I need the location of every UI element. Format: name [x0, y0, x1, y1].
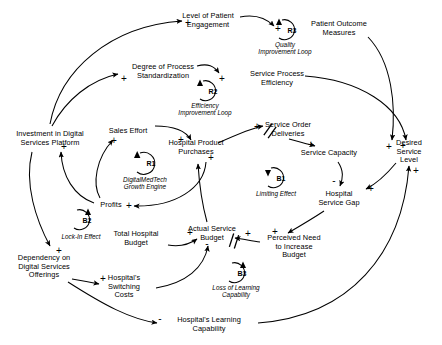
polarity-investment-to-patient-engagement: + — [185, 18, 191, 28]
loop-id-b3: B3 — [238, 270, 247, 277]
node-investment-in-digital-services-platform: Investment in Digital Services Platform — [16, 130, 84, 147]
polarity-budget-to-purchases: + — [208, 153, 214, 163]
polarity-investment-to-dependency: + — [56, 246, 62, 256]
link-gap-to-perceived-need — [288, 211, 324, 233]
loop-id-b1: B1 — [277, 175, 286, 182]
link-investment-to-dependency — [29, 152, 50, 246]
loop-name-b2: Lock-In Effect — [61, 233, 100, 240]
link-profits-to-sales-effort — [96, 140, 113, 198]
polarity-profits-to-sales-effort: + — [111, 136, 117, 146]
polarity-desired-level-to-gap: + — [368, 184, 374, 194]
node-hospital-product-purchases: Hospital Product Purchases — [168, 139, 223, 156]
polarity-gap-to-perceived-need: + — [272, 227, 278, 237]
polarity-standardization-to-efficiency: + — [219, 74, 225, 84]
loop-name-r1: DigitalMedTech Growth Engine — [123, 176, 167, 191]
link-service-capacity-to-gap — [338, 162, 342, 186]
link-investment-to-standardization — [52, 74, 118, 126]
link-patient-engagement-to-patient-outcome — [240, 16, 274, 26]
link-profits-to-investment — [61, 152, 94, 203]
polarity-sales-effort-to-purchases: + — [178, 135, 184, 145]
polarity-perceived-need-to-actual-budget: + — [245, 229, 251, 239]
polarity-deliveries-to-service-capacity: + — [308, 140, 314, 150]
node-service-process-efficiency: Service Process Efficiency — [250, 70, 304, 87]
polarity-dependency-to-learning-capability: - — [158, 314, 161, 324]
polarity-profits-to-investment: + — [61, 142, 67, 152]
node-actual-service-budget: Actual Service Budget — [188, 225, 236, 242]
node-service-order-deliveries: Service Order Deliveries — [265, 121, 311, 138]
loop-id-r2: R2 — [209, 88, 218, 95]
link-standardization-to-efficiency — [197, 65, 219, 73]
node-patient-outcome-measures: Patient Outcome Measures — [311, 20, 367, 37]
link-dependency-to-switching-costs — [72, 279, 99, 284]
loop-id-r3: R3 — [288, 27, 297, 34]
polarity-total-budget-to-actual-budget: + — [187, 228, 193, 238]
polarity-outcome-to-desired-service-level: + — [386, 142, 392, 152]
loop-id-b2: B2 — [83, 217, 92, 224]
node-hospitals-switching-costs: Hospital's Switching Costs — [108, 274, 140, 300]
node-dependency-on-digital-services-offerings: Dependency on Digital Services Offerings — [18, 254, 70, 280]
loop-name-r3: Quality Improvement Loop — [258, 41, 311, 56]
node-degree-of-process-standardization: Degree of Process Standardization — [132, 63, 194, 80]
node-desired-service-level: Desired Service Level — [393, 139, 426, 165]
loop-dir-R1 — [134, 151, 140, 158]
node-hospitals-learning-capability: Hospital's Learning Capability — [177, 316, 241, 333]
polarity-dependency-to-switching-costs: + — [100, 274, 106, 284]
causal-loop-diagram: Level of Patient Engagement Patient Outc… — [0, 0, 442, 345]
loop-dir-B1 — [265, 170, 271, 177]
polarity-learning-to-desired-service-level: + — [413, 166, 419, 176]
polarity-patient-engagement-to-patient-outcome: + — [275, 24, 281, 34]
loop-name-b3: Loss of Learning Capability — [212, 284, 259, 299]
polarity-purchases-to-profits: + — [126, 201, 132, 211]
node-total-hospital-budget: Total Hospital Budget — [113, 230, 158, 247]
polarity-switching-to-actual-budget: - — [205, 239, 208, 249]
node-profits: Profits — [100, 201, 121, 210]
loop-id-r1: R1 — [147, 160, 156, 167]
polarity-efficiency-to-desired-service-level: + — [400, 141, 406, 151]
polarity-service-capacity-to-gap: - — [332, 176, 335, 186]
polarity-investment-to-standardization: + — [121, 74, 127, 84]
loop-dir-R2 — [197, 80, 203, 87]
loop-name-r2: Efficiency Improvement Loop — [178, 102, 231, 117]
link-outcome-to-desired-service-level — [368, 37, 393, 140]
link-switching-to-actual-budget — [156, 246, 208, 288]
node-sales-effort: Sales Effort — [109, 127, 148, 136]
polarity-purchases-to-service-order-deliveries: + — [254, 122, 260, 132]
node-perceived-need-to-increase-budget: Perceived Need to Increase Budget — [267, 234, 320, 260]
node-hospital-service-gap: Hospital Service Gap — [318, 190, 359, 207]
loop-name-b1: Limiting Effect — [256, 190, 296, 197]
link-actual-budget-to-purchases — [198, 164, 207, 222]
